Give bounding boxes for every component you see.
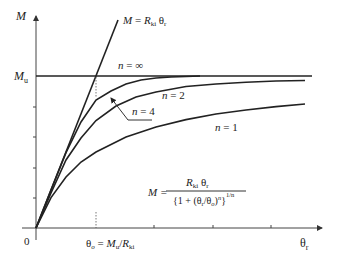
label-n-4: n = 4 <box>132 105 155 117</box>
formula-lhs: M = <box>147 186 167 198</box>
x-axis: 0 θr <box>22 225 322 252</box>
origin-label: 0 <box>24 235 30 247</box>
y-axis: M Mu <box>13 9 36 240</box>
label-n-1: n = 1 <box>215 121 238 133</box>
mu-label: Mu <box>13 69 28 85</box>
y-axis-label: M <box>15 9 27 23</box>
theta-o-label: θo = Mu/Rki <box>86 237 134 251</box>
formula-numerator: Rki θr <box>185 176 209 190</box>
label-n-infinity: n = ∞ <box>118 59 143 71</box>
x-axis-label: θr <box>300 236 309 252</box>
power-model-formula: M = Rki θr {1 + (θr/θo)n}1/n <box>147 176 246 207</box>
curve-n-2 <box>36 81 305 229</box>
label-n-2: n = 2 <box>162 89 185 101</box>
formula-denominator: {1 + (θr/θo)n}1/n <box>173 191 235 207</box>
moment-rotation-diagram: M Mu 0 θr n = ∞ M = Rki θr n = 2 <box>0 0 337 262</box>
curve-n-1 <box>36 104 305 228</box>
linear-line-label: M = Rki θr <box>122 14 167 28</box>
